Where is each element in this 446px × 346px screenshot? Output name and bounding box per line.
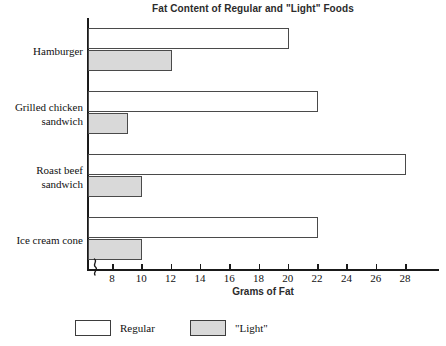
x-tick-mark bbox=[259, 264, 261, 270]
bar-regular bbox=[88, 217, 318, 238]
x-tick-mark bbox=[229, 264, 231, 270]
category-label-line: Hamburger bbox=[0, 45, 83, 59]
x-tick-mark bbox=[317, 264, 319, 270]
x-tick-label: 12 bbox=[158, 272, 184, 284]
x-tick-mark bbox=[288, 264, 290, 270]
axis-break-icon bbox=[90, 258, 102, 276]
x-tick-mark bbox=[171, 264, 173, 270]
x-tick-mark bbox=[141, 264, 143, 270]
x-tick-mark bbox=[200, 264, 202, 270]
legend-item: Regular bbox=[75, 318, 155, 338]
legend: Regular"Light" bbox=[0, 318, 446, 342]
category-label-line: Grilled chicken bbox=[0, 101, 83, 115]
category-label: Hamburger bbox=[0, 45, 83, 59]
x-tick-label: 14 bbox=[187, 272, 213, 284]
x-tick-label: 10 bbox=[128, 272, 154, 284]
category-label-line: Roast beef bbox=[0, 164, 83, 178]
white-swatch bbox=[75, 320, 111, 336]
bar-regular bbox=[88, 154, 406, 175]
legend-label: "Light" bbox=[235, 322, 268, 334]
category-label: Ice cream cone bbox=[0, 234, 83, 248]
bar-regular bbox=[88, 91, 318, 112]
category-label: Roast beefsandwich bbox=[0, 164, 83, 191]
bar-light bbox=[88, 239, 142, 260]
category-label-line: sandwich bbox=[0, 178, 83, 192]
x-tick-label: 22 bbox=[304, 272, 330, 284]
x-tick-mark bbox=[376, 264, 378, 270]
x-tick-label: 24 bbox=[333, 272, 359, 284]
x-tick-mark bbox=[346, 264, 348, 270]
x-tick-label: 16 bbox=[216, 272, 242, 284]
x-axis-title: Grams of Fat bbox=[87, 286, 439, 297]
x-tick-mark bbox=[112, 264, 114, 270]
x-tick-label: 18 bbox=[246, 272, 272, 284]
bar-light bbox=[88, 113, 128, 134]
bar-light bbox=[88, 176, 142, 197]
gray-swatch bbox=[190, 320, 226, 336]
category-label-line: sandwich bbox=[0, 115, 83, 129]
category-label-line: Ice cream cone bbox=[0, 234, 83, 248]
bar-light bbox=[88, 50, 172, 71]
plot-area bbox=[87, 18, 439, 270]
x-tick-label: 28 bbox=[392, 272, 418, 284]
x-axis-line bbox=[87, 269, 439, 271]
x-tick-label: 8 bbox=[99, 272, 125, 284]
x-tick-label: 26 bbox=[363, 272, 389, 284]
x-tick-mark bbox=[405, 264, 407, 270]
legend-item: "Light" bbox=[190, 318, 268, 338]
chart-title: Fat Content of Regular and "Light" Foods bbox=[0, 3, 446, 14]
chart-figure: Fat Content of Regular and "Light" Foods… bbox=[0, 0, 446, 346]
legend-label: Regular bbox=[120, 322, 155, 334]
bar-regular bbox=[88, 28, 289, 49]
x-tick-label: 20 bbox=[275, 272, 301, 284]
category-label: Grilled chickensandwich bbox=[0, 101, 83, 128]
